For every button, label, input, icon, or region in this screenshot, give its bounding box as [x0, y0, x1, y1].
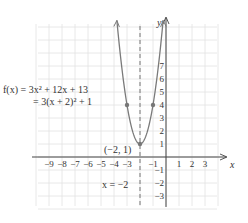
vertex-label: (−2, 1): [104, 144, 131, 156]
y-tick-label: 6: [160, 74, 165, 84]
parabola-chart: −9−8−7−6−5−4−3−11237654321−1−2−3 f(x) = …: [0, 0, 248, 223]
axis-of-symmetry-label: x = −2: [102, 179, 128, 190]
x-tick-label: −7: [70, 159, 80, 169]
x-tick-label: −6: [83, 159, 93, 169]
equation-line-1: f(x) = 3x² + 12x + 13: [3, 84, 88, 96]
y-tick-label: −2: [154, 178, 164, 188]
x-tick-label: −8: [57, 159, 67, 169]
x-tick-label: 2: [190, 159, 195, 169]
data-point: [125, 103, 129, 107]
y-tick-label: 5: [160, 87, 165, 97]
y-tick-label: −1: [154, 165, 164, 175]
equation-line-2: = 3(x + 2)² + 1: [33, 96, 92, 108]
axes: [32, 17, 227, 207]
y-tick-label: 7: [160, 61, 165, 71]
x-tick-label: 3: [203, 159, 208, 169]
data-point: [151, 103, 155, 107]
y-tick-label: −3: [154, 191, 164, 201]
y-axis-label: y: [156, 17, 162, 28]
y-tick-label: 2: [160, 126, 165, 136]
data-point: [138, 142, 142, 146]
x-tick-label: −4: [109, 159, 119, 169]
y-tick-label: 4: [160, 100, 165, 110]
y-tick-label: 1: [160, 139, 165, 149]
x-tick-label: −5: [96, 159, 106, 169]
x-axis-label: x: [229, 159, 235, 170]
y-tick-label: 3: [160, 113, 165, 123]
x-tick-label: −9: [44, 159, 54, 169]
x-tick-label: −3: [122, 159, 132, 169]
x-tick-label: 1: [177, 159, 182, 169]
